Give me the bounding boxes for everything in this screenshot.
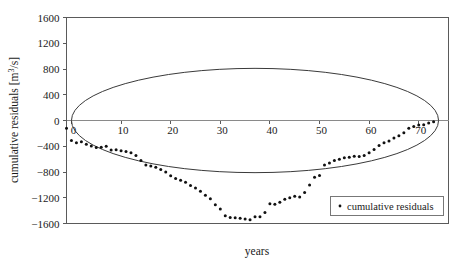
y-tick-label: 800	[43, 63, 60, 75]
data-point	[303, 191, 306, 194]
data-point	[229, 216, 232, 219]
data-point	[283, 198, 286, 201]
data-point	[254, 215, 257, 218]
data-point	[85, 143, 88, 146]
data-point	[244, 217, 247, 220]
data-point	[432, 120, 435, 123]
data-point	[174, 177, 177, 180]
x-tick-label: 10	[118, 124, 130, 136]
y-tick-label: −800	[37, 166, 60, 178]
data-point	[338, 158, 341, 161]
y-tick-label: −1600	[31, 218, 60, 230]
x-axis-ticks: 010203040506070	[71, 121, 427, 136]
data-point	[159, 168, 162, 171]
data-point	[348, 156, 351, 159]
data-point	[298, 196, 301, 199]
data-point	[194, 187, 197, 190]
y-tick-label: −400	[37, 140, 60, 152]
data-point	[139, 159, 142, 162]
chart-figure: −1600−1200−800−400040080012001600 010203…	[0, 0, 471, 268]
data-point	[363, 154, 366, 157]
legend-label-cumulative-residuals: cumulative residuals	[347, 201, 434, 212]
data-point	[273, 203, 276, 206]
data-point	[402, 131, 405, 134]
data-point	[70, 139, 73, 142]
data-point	[154, 166, 157, 169]
data-point	[179, 179, 182, 182]
data-point	[353, 155, 356, 158]
data-point	[189, 184, 192, 187]
y-tick-label: −1200	[31, 192, 60, 204]
data-point	[224, 214, 227, 217]
data-point	[184, 181, 187, 184]
data-point	[293, 195, 296, 198]
data-point	[110, 149, 113, 152]
data-point	[134, 154, 137, 157]
chart-legend[interactable]: cumulative residuals	[331, 197, 444, 216]
y-tick-label: 0	[54, 115, 60, 127]
data-point	[417, 124, 420, 127]
data-point	[95, 146, 98, 149]
data-point	[234, 216, 237, 219]
data-point	[90, 144, 93, 147]
data-point	[343, 156, 346, 159]
data-point	[422, 123, 425, 126]
data-point	[387, 140, 390, 143]
data-point	[313, 176, 316, 179]
data-point	[412, 125, 415, 128]
data-point	[288, 196, 291, 199]
y-axis-title: cumulative residuals [m3/s]	[7, 57, 21, 183]
y-axis-ticks: −1600−1200−800−400040080012001600	[31, 12, 66, 230]
data-point	[392, 136, 395, 139]
data-point	[268, 202, 271, 205]
data-point	[164, 171, 167, 174]
data-point	[328, 161, 331, 164]
data-point	[199, 190, 202, 193]
data-point	[144, 163, 147, 166]
data-point	[80, 140, 83, 143]
y-tick-label: 400	[43, 89, 60, 101]
data-point	[427, 122, 430, 125]
data-point	[263, 211, 266, 214]
data-point	[358, 155, 361, 158]
data-point	[169, 174, 172, 177]
data-point	[383, 141, 386, 144]
x-tick-label: 60	[366, 124, 378, 136]
data-point	[239, 217, 242, 220]
x-tick-label: 20	[167, 124, 179, 136]
data-point	[204, 194, 207, 197]
data-point	[129, 151, 132, 154]
data-point	[373, 148, 376, 151]
data-point	[378, 144, 381, 147]
data-point	[308, 183, 311, 186]
x-tick-label: 30	[217, 124, 229, 136]
data-point	[75, 141, 78, 144]
y-tick-label: 1600	[38, 12, 61, 24]
data-point	[368, 151, 371, 154]
data-point	[115, 148, 118, 151]
data-point	[397, 134, 400, 137]
data-point	[105, 145, 108, 148]
data-point	[333, 159, 336, 162]
x-axis-title: years	[245, 245, 270, 258]
data-point	[100, 146, 103, 149]
data-point	[125, 150, 128, 153]
data-point	[65, 127, 68, 130]
data-point	[149, 164, 152, 167]
x-tick-label: 50	[316, 124, 328, 136]
data-point	[323, 163, 326, 166]
y-tick-label: 1200	[38, 37, 61, 49]
data-point	[318, 174, 321, 177]
data-point	[209, 197, 212, 200]
cumulative-residuals-chart: −1600−1200−800−400040080012001600 010203…	[0, 0, 471, 268]
data-point	[120, 149, 123, 152]
data-point	[258, 215, 261, 218]
x-tick-label: 40	[266, 124, 278, 136]
data-point	[278, 201, 281, 204]
data-point	[407, 127, 410, 130]
data-point	[249, 218, 252, 221]
data-point	[214, 203, 217, 206]
data-point	[219, 208, 222, 211]
legend-marker-dot	[339, 205, 342, 208]
